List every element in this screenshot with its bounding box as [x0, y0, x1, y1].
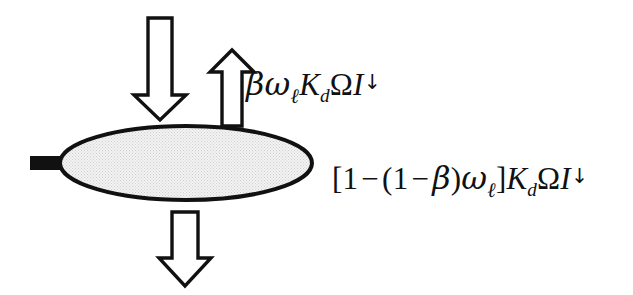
formula-transmitted-one-b: 1: [393, 161, 409, 196]
formula-absorbed-beta: β: [246, 66, 264, 102]
formula-transmitted-irradiance: I: [560, 161, 571, 196]
formula-transmitted-paren-close: ): [451, 161, 462, 196]
formula-transmitted-omega: ω: [461, 160, 487, 196]
formula-absorbed-omega: ω: [264, 66, 290, 102]
incoming-radiation-arrow: [134, 18, 186, 120]
formula-absorbed-irradiance: I: [353, 67, 364, 102]
formula-transmitted-minus-a: −: [358, 161, 382, 196]
down-arrow-icon: ↓: [363, 70, 380, 94]
formula-transmitted-one-a: 1: [343, 161, 359, 196]
formula-transmitted-bracket-close: ]: [496, 161, 507, 196]
formula-transmitted-omega-subscript: ℓ: [487, 178, 496, 202]
leaf-flux-diagram: [0, 0, 633, 295]
formula-absorbed-omega-subscript: ℓ: [290, 84, 299, 108]
transmitted-radiation-arrow: [159, 212, 211, 286]
formula-transmitted-bracket-open: [: [332, 161, 343, 196]
diagram-canvas: βωℓKdΩI↓ [1−(1−β)ωℓ]KdΩI↓: [0, 0, 633, 295]
down-arrow-icon: ↓: [571, 164, 588, 188]
formula-transmitted-beta: β: [432, 160, 450, 196]
formula-transmitted-minus-b: −: [408, 161, 432, 196]
formula-absorbed-k-subscript: d: [320, 85, 330, 106]
formula-transmitted: [1−(1−β)ωℓ]KdΩI↓: [332, 160, 588, 202]
formula-absorbed-capital-omega: Ω: [330, 67, 353, 102]
formula-transmitted-k-subscript: d: [527, 179, 537, 200]
formula-absorbed: βωℓKdΩI↓: [246, 66, 381, 108]
formula-transmitted-k: K: [506, 161, 527, 196]
leaf-ellipse: [60, 126, 312, 200]
formula-transmitted-capital-omega: Ω: [537, 161, 560, 196]
formula-absorbed-k: K: [299, 67, 320, 102]
formula-transmitted-paren-open: (: [382, 161, 393, 196]
